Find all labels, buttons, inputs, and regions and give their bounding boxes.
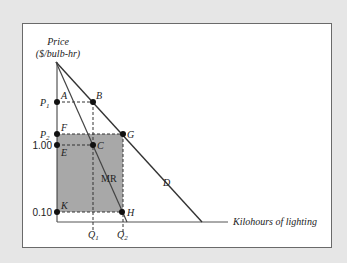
tick-q1: Q1 [88, 229, 99, 242]
label-k: K [60, 200, 69, 211]
label-b: B [96, 90, 102, 101]
tick-1-00: 1.00 [33, 140, 53, 151]
label-c: C [97, 140, 104, 151]
label-g: G [127, 129, 134, 140]
y-axis-title-line1: Price [46, 36, 69, 47]
label-a: A [60, 90, 68, 101]
y-axis-title-line2: ($/bulb-hr) [36, 48, 81, 60]
label-mr: MR [101, 173, 117, 184]
x-axis-title: Kilohours of lighting [232, 216, 317, 227]
tick-p1: P1 [39, 97, 50, 110]
label-e: E [60, 147, 67, 158]
label-h: H [126, 207, 135, 218]
tick-0-10: 0.10 [33, 207, 53, 218]
label-d: D [162, 177, 171, 188]
label-f: F [60, 122, 68, 133]
chart-svg: Price ($/bulb-hr) Kilohours of lighting … [0, 0, 347, 263]
tick-q2: Q2 [117, 229, 128, 242]
